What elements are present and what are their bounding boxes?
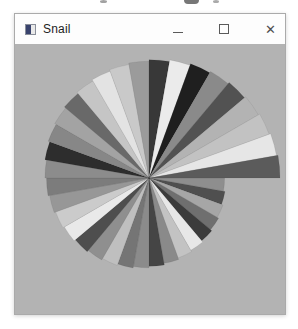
window-title: Snail [43,22,155,36]
maximize-button[interactable] [201,14,247,44]
close-icon: ✕ [265,23,276,36]
snail-window: Snail ✕ [14,13,286,315]
maximize-icon [219,24,229,34]
snail-drawing [15,44,285,314]
cropped-text-fragment [100,0,107,3]
title-bar[interactable]: Snail ✕ [15,14,285,44]
caption-buttons: ✕ [155,14,293,44]
app-icon [25,24,36,35]
cropped-text-fragment [184,0,199,4]
minimize-button[interactable] [155,14,201,44]
cropped-text-fragment [213,0,219,3]
close-button[interactable]: ✕ [247,14,293,44]
minimize-icon [173,32,183,33]
client-area [15,44,285,314]
